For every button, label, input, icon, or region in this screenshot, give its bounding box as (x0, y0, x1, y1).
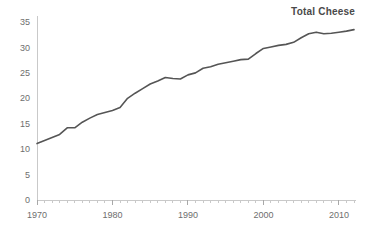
y-tick-label: 30 (20, 43, 30, 53)
x-tick-label: 1990 (178, 210, 198, 220)
y-tick-label: 35 (20, 17, 30, 27)
y-tick-label: 0 (25, 195, 30, 205)
chart-container: Total Cheese 05101520253035 197019801990… (0, 0, 365, 234)
y-tick-label: 5 (25, 170, 30, 180)
y-axis: 05101520253035 (20, 16, 37, 205)
y-tick-label: 15 (20, 119, 30, 129)
series-group (37, 30, 354, 144)
data-series-line (37, 30, 354, 144)
x-tick-label: 1970 (27, 210, 47, 220)
y-tick-label: 25 (20, 68, 30, 78)
y-tick-label: 10 (20, 144, 30, 154)
x-tick-label: 2010 (329, 210, 349, 220)
y-tick-label: 20 (20, 93, 30, 103)
x-axis: 19701980199020002010 (27, 200, 356, 220)
x-tick-label: 2000 (253, 210, 273, 220)
line-chart-plot: 05101520253035 19701980199020002010 (0, 0, 365, 234)
x-tick-label: 1980 (102, 210, 122, 220)
